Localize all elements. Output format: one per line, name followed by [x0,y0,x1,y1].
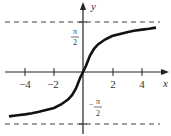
y-label-neg-pi-over-2: − π 2 [89,97,102,118]
x-axis-arrow-icon [161,69,169,75]
y-axis-arrow-icon [80,2,86,10]
x-tick-label-2: 2 [110,78,116,90]
svg-text:2: 2 [96,109,100,118]
svg-text:−: − [89,100,94,109]
svg-text:π: π [73,27,77,36]
y-axis-label: y [90,0,96,12]
x-axis-label: x [162,77,168,89]
x-tick-label-m4: −4 [19,78,31,90]
x-tick-label-m2: −2 [47,78,59,90]
arctan-plot: −4 −2 2 4 x y π 2 − π 2 [0,0,171,136]
x-tick-label-4: 4 [139,78,145,90]
svg-text:2: 2 [73,38,77,47]
y-label-pi-over-2: π 2 [71,27,79,47]
svg-text:π: π [96,97,100,106]
